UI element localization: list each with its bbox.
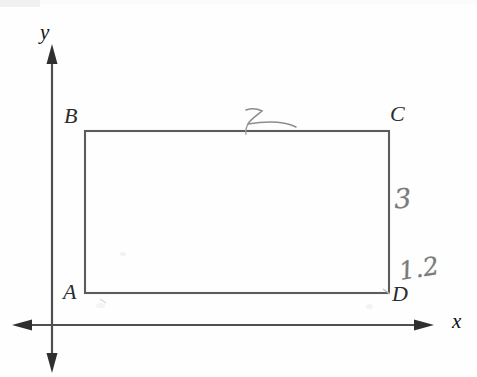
y-axis-arrow-down-icon	[47, 353, 58, 373]
y-axis-arrow-up-icon	[47, 44, 58, 64]
scan-smudge-3	[96, 303, 105, 308]
x-axis-arrow-right-icon	[414, 320, 434, 331]
figure-canvas: y x B C A D 5 3 1.2	[0, 0, 477, 377]
scan-smudge-1	[120, 252, 126, 256]
rectangle-abcd	[85, 131, 389, 293]
annotation-right-edge-length: 3	[393, 184, 412, 212]
vertex-label-b: B	[64, 105, 77, 127]
x-axis-label: x	[452, 311, 461, 332]
vertex-label-c: C	[390, 103, 405, 125]
vertex-label-d: D	[392, 283, 408, 305]
annotation-near-d: 1.2	[397, 253, 440, 284]
y-axis-label: y	[40, 22, 49, 43]
vertex-label-a: A	[63, 281, 76, 303]
scan-smudge-2	[366, 304, 373, 309]
x-axis-arrow-left-icon	[12, 320, 32, 331]
